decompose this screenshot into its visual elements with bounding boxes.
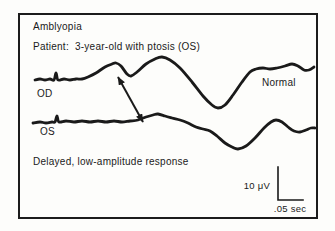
figure-frame: Amblyopia Patient: 3-year-old with ptosi… [18,13,318,219]
od-trace-label: OD [37,88,53,100]
figure-page: Amblyopia Patient: 3-year-old with ptosi… [0,0,335,231]
figure-title: Amblyopia [33,21,82,33]
scale-bar [278,167,303,200]
normal-annotation: Normal [262,77,296,89]
time-scale-label: .05 sec [268,203,312,215]
amplitude-scale-label: 10 μV [232,180,270,192]
os-waveform-trace [33,114,315,149]
latency-difference-arrow [118,77,143,122]
os-trace-label: OS [40,126,55,138]
figure-caption: Delayed, low-amplitude response [33,156,189,168]
patient-description: Patient: 3-year-old with ptosis (OS) [33,41,200,53]
